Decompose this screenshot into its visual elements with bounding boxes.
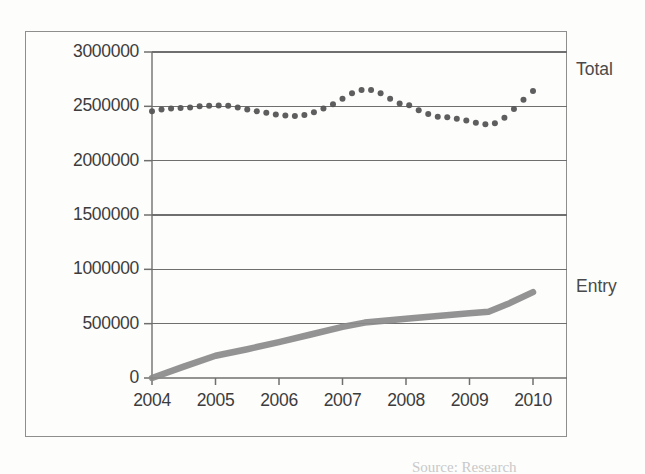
x-tick-label: 2008 xyxy=(376,390,436,411)
y-tick-label: 3000000 xyxy=(73,41,139,62)
legend-label-entry: Entry xyxy=(576,276,617,297)
x-tick-label: 2010 xyxy=(503,390,563,411)
x-tick-label: 2005 xyxy=(186,390,246,411)
x-tick-label: 2004 xyxy=(122,390,182,411)
source-note: Source: Research xyxy=(412,459,517,473)
y-tick-label: 2000000 xyxy=(73,150,139,171)
gridlines-group xyxy=(152,52,567,324)
chart-page: 0500000100000015000002000000250000030000… xyxy=(0,0,645,474)
x-tick-label: 2006 xyxy=(249,390,309,411)
x-tick-label: 2007 xyxy=(313,390,373,411)
y-tick-label: 0 xyxy=(130,367,139,388)
series-entry-line xyxy=(152,292,533,378)
y-tick-label: 500000 xyxy=(82,313,139,334)
x-tick-marks-group xyxy=(152,378,533,385)
x-tick-label: 2009 xyxy=(440,390,500,411)
y-tick-label: 2500000 xyxy=(73,95,139,116)
y-tick-label: 1500000 xyxy=(73,204,139,225)
y-tick-label: 1000000 xyxy=(73,258,139,279)
series-total-markers xyxy=(149,87,536,127)
legend-label-total: Total xyxy=(576,59,613,80)
